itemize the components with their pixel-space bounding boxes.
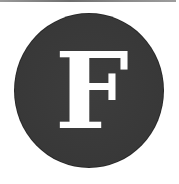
logo-badge: F <box>14 13 164 168</box>
top-divider <box>0 0 176 2</box>
logo-letter: F <box>14 13 164 168</box>
